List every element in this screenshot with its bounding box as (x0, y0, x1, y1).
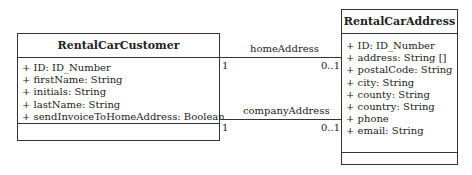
attribute: + country: String (346, 101, 457, 113)
attribute: + phone (346, 113, 457, 125)
attributes-compartment: + ID: ID_Number + address: String [] + p… (342, 34, 457, 153)
source-multiplicity: 1 (222, 122, 228, 133)
association-home-address-line (219, 57, 342, 58)
operations-compartment (342, 153, 457, 164)
attribute: + ID: ID_Number (22, 62, 219, 74)
attribute: + county: String (346, 89, 457, 101)
attributes-compartment: + ID: ID_Number + firstName: String + in… (18, 58, 219, 124)
class-name: RentalCarCustomer (18, 34, 219, 58)
attribute: + sendInvoiceToHomeAddress: Boolean (22, 111, 219, 123)
association-company-address-line (219, 119, 342, 120)
attribute: + postalCode: String (346, 64, 457, 76)
class-rental-car-customer: RentalCarCustomer + ID: ID_Number + firs… (17, 33, 220, 141)
association-role-label: companyAddress (243, 105, 330, 116)
attribute: + ID: ID_Number (346, 40, 457, 52)
target-multiplicity: 0..1 (321, 122, 340, 133)
class-rental-car-address: RentalCarAddress + ID: ID_Number + addre… (341, 9, 458, 165)
attribute: + email: String (346, 125, 457, 137)
association-role-label: homeAddress (250, 43, 319, 54)
source-multiplicity: 1 (222, 60, 228, 71)
operations-compartment (18, 124, 219, 140)
target-multiplicity: 0..1 (321, 60, 340, 71)
attribute: + address: String [] (346, 52, 457, 64)
attribute: + lastName: String (22, 99, 219, 111)
attribute: + firstName: String (22, 74, 219, 86)
attribute: + city: String (346, 77, 457, 89)
class-name: RentalCarAddress (342, 10, 457, 34)
attribute: + initials: String (22, 86, 219, 98)
